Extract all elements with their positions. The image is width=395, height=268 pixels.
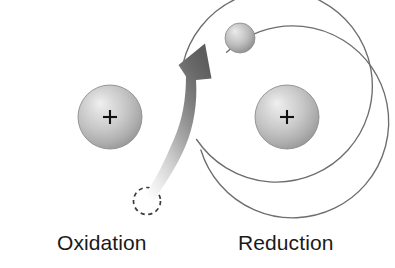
transferred-electron-texture — [225, 23, 255, 53]
label-oxidation: Oxidation — [57, 231, 147, 255]
oxidation-reduction-diagram: Oxidation Reduction — [0, 0, 395, 268]
transferred-electron-group — [225, 23, 255, 53]
electron-transfer-arrow-icon — [147, 44, 212, 204]
diagram-canvas — [0, 0, 395, 268]
label-reduction: Reduction — [238, 231, 333, 255]
right-atom-group — [201, 26, 389, 218]
